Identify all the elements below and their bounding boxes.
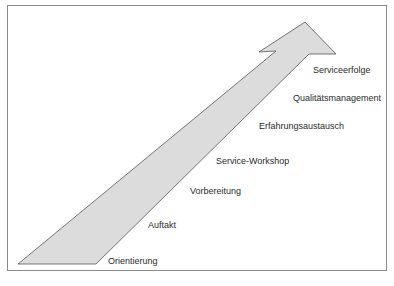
stage-label-vorbereitung: Vorbereitung — [190, 186, 241, 196]
stage-label-auftakt: Auftakt — [148, 220, 176, 230]
rising-arrow-icon — [0, 0, 394, 286]
stage-label-serviceerfolge: Serviceerfolge — [313, 65, 371, 75]
stage-label-orientierung: Orientierung — [108, 256, 158, 266]
stage-label-service-workshop: Service-Workshop — [216, 156, 289, 166]
stage-label-erfahrungsaustausch: Erfahrungsaustausch — [259, 121, 344, 131]
stage-label-qualitaetsmanagement: Qualitätsmanagement — [293, 93, 381, 103]
